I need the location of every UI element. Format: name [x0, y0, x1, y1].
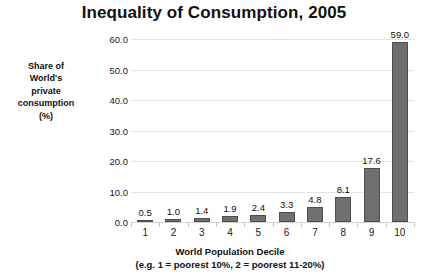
plot-area: 0.51.01.41.92.43.34.88.117.659.0: [131, 39, 414, 222]
y-axis-tick-label: 0.0: [92, 217, 128, 228]
bar-value-label: 17.6: [355, 155, 389, 166]
x-axis-title-main: World Population Decile: [60, 245, 400, 258]
y-axis-title-line-2: World's: [2, 72, 90, 84]
y-axis-title-line-5: (%): [2, 110, 90, 122]
y-axis-title-line-3: private: [2, 85, 90, 97]
gridline: [131, 39, 414, 40]
x-axis-title-note: (e.g. 1 = poorest 10%, 2 = poorest 11-20…: [60, 258, 400, 271]
bar: [392, 42, 408, 222]
y-axis-tick-label: 30.0: [92, 125, 128, 136]
x-axis-tick-label: 10: [383, 227, 417, 238]
y-axis-title-line-1: Share of: [2, 60, 90, 72]
x-axis-tick-labels: 12345678910: [131, 227, 414, 243]
bar: [250, 215, 266, 222]
bar-value-label: 59.0: [383, 29, 417, 40]
y-axis-tick-label: 40.0: [92, 95, 128, 106]
y-axis-title-line-4: consumption: [2, 97, 90, 109]
bar: [307, 207, 323, 222]
y-axis-tick-label: 10.0: [92, 186, 128, 197]
gridline: [131, 131, 414, 132]
y-axis-tick-label: 60.0: [92, 34, 128, 45]
gridline: [131, 70, 414, 71]
bar: [364, 168, 380, 222]
bar: [335, 197, 351, 222]
gridline: [131, 100, 414, 101]
bar-value-label: 8.1: [326, 184, 360, 195]
y-axis-tick-label: 20.0: [92, 156, 128, 167]
y-axis-tick-label: 50.0: [92, 64, 128, 75]
bar: [279, 212, 295, 222]
x-axis-title: World Population Decile (e.g. 1 = poores…: [60, 245, 400, 271]
y-axis-tick-labels: 0.010.020.030.040.050.060.0: [88, 39, 128, 222]
chart-title: Inequality of Consumption, 2005: [0, 3, 428, 23]
chart-container: Inequality of Consumption, 2005 Share of…: [0, 0, 428, 278]
y-axis-title: Share of World's private consumption (%): [2, 60, 90, 122]
bar-value-label: 4.8: [298, 194, 332, 205]
